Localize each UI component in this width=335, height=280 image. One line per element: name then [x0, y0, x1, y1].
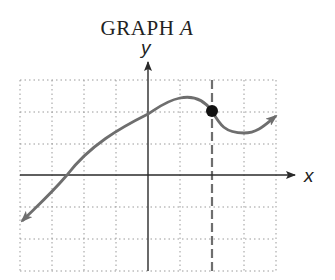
function-curve — [22, 97, 212, 221]
y-axis-label: y — [139, 37, 152, 58]
x-axis-label: x — [303, 165, 315, 186]
marked-point — [206, 105, 218, 117]
graph-canvas: x y — [0, 0, 335, 280]
